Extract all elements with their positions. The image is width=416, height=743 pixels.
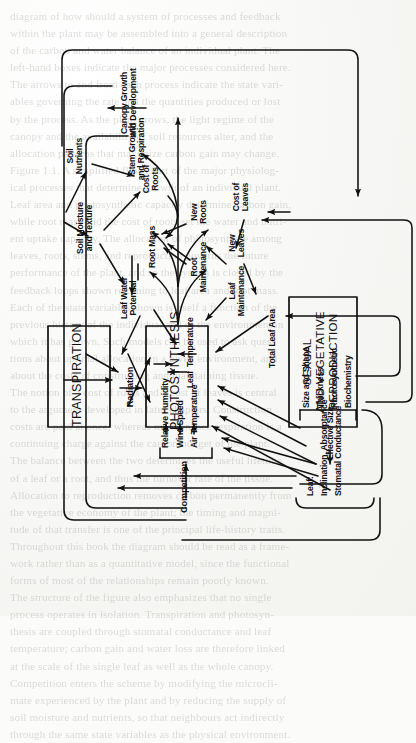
bracket-leaf-properties-line-1: Leaf: <box>306 476 315 496</box>
showthrough-line: soil moisture and nutrients, so that nei… <box>10 709 406 726</box>
label-root-mass: Root Mass <box>148 218 157 276</box>
showthrough-line: temperature; carbon gain and water loss … <box>10 640 406 657</box>
label-relative-humidity: Relative Humidity <box>161 378 170 448</box>
bracket-leaf-properties-line-2: Inclination, Absorptance <box>320 400 329 496</box>
label-soil-nutrients: Soil Nutrients <box>66 128 84 184</box>
bracket-leaf-structure-line-3: Photosynthetic <box>330 348 339 408</box>
label-radiation: Radiation <box>126 358 135 416</box>
bracket-leaf-properties-line-3: Stomatal Conductance <box>334 406 343 496</box>
label-leaf-water-potential: Leaf Water Potential <box>120 266 138 330</box>
showthrough-line: thesis are coupled through stomatal cond… <box>10 623 406 640</box>
label-root-maintenance: Root Maintenance <box>190 236 208 298</box>
label-wind-speed: Wind Speed <box>176 400 185 448</box>
bracket-leaf-structure-line-1: Size and Shape <box>302 347 311 408</box>
label-air-temperature: Air Temperature <box>190 385 199 449</box>
label-soil-moisture-and-texture: Soil Moisture and Texture <box>76 192 94 264</box>
label-leaf-maintenance: Leaf Maintenance <box>228 260 246 322</box>
bracket-leaf-structure-line-2: Thickness <box>316 367 325 408</box>
label-cost-of-leaves: Cost of Leaves <box>232 172 250 222</box>
label-leaf-temperature: Leaf Temperature <box>186 317 195 388</box>
showthrough-line: mate experienced by the plant and by red… <box>10 692 406 709</box>
label-competition: Competition <box>180 454 189 520</box>
showthrough-line: through the same state variables as the … <box>10 726 406 743</box>
label-canopy-growth-and-development: Canopy Growth and Development <box>120 64 138 142</box>
label-new-roots: New Roots <box>190 190 208 234</box>
bracket-leaf-structure-line-4: Biochemistry <box>344 355 353 408</box>
showthrough-line: Competition enters the scheme by modifyi… <box>10 675 406 692</box>
process-box-transpiration-label: TRANSPIRATION <box>70 326 84 427</box>
label-new-leaves: New Leaves <box>228 220 246 266</box>
label-total-leaf-area: Total Leaf Area <box>268 309 277 368</box>
showthrough-line: at the scale of the single leaf as well … <box>10 658 406 675</box>
